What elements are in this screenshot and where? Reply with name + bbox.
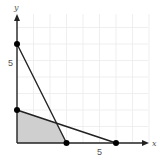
coordinate-graph: x y 5 5	[0, 0, 160, 161]
point-y-intercept-2	[14, 107, 20, 113]
y-axis-label: y	[13, 3, 19, 12]
point-x-intercept-6	[113, 140, 119, 146]
x-axis-arrow-icon	[142, 140, 149, 146]
point-x-intercept-3	[64, 140, 70, 146]
x-axis-label: x	[152, 139, 157, 148]
y-axis-arrow-icon	[14, 14, 20, 21]
x-tick-label-5: 5	[97, 147, 102, 157]
y-tick-label-5: 5	[8, 58, 13, 68]
point-y-intercept-6	[14, 41, 20, 47]
